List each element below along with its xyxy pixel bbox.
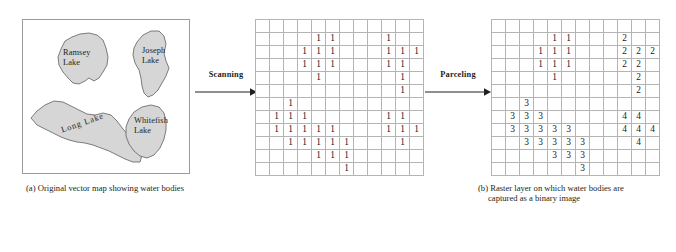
raster-binary-cell (354, 163, 368, 176)
raster-binary-cell: 1 (298, 111, 312, 124)
raster-parceled-cell: 2 (632, 59, 646, 72)
raster-parceled-cell (646, 33, 660, 46)
raster-binary-cell (340, 20, 354, 33)
raster-parceled-cell (576, 59, 590, 72)
raster-binary-cell: 1 (410, 46, 424, 59)
raster-binary-cell (368, 85, 382, 98)
long-lake-polygon (31, 101, 142, 162)
raster-binary-cell: 1 (312, 124, 326, 137)
raster-parceled-cell: 3 (562, 137, 576, 150)
raster-binary-cell (256, 20, 270, 33)
raster-binary-cell: 1 (298, 124, 312, 137)
raster-parceled-cell (618, 85, 632, 98)
panel-b-raster-binary: 1111111111111111111111111111111111111111… (222, 0, 447, 252)
raster-binary-cell (298, 163, 312, 176)
raster-binary-cell (284, 150, 298, 163)
raster-parceled-cell (548, 98, 562, 111)
raster-parceled-cell: 2 (632, 85, 646, 98)
raster-binary-cell: 1 (382, 111, 396, 124)
raster-binary-cell: 1 (326, 137, 340, 150)
raster-binary-cell (410, 150, 424, 163)
raster-parceled-cell (618, 163, 632, 176)
raster-binary-cell (298, 85, 312, 98)
raster-parceled-cell (506, 20, 520, 33)
raster-binary-cell (298, 33, 312, 46)
raster-binary-cell (256, 46, 270, 59)
raster-parceled-cell (492, 72, 506, 85)
raster-binary-cell (382, 163, 396, 176)
raster-parceled-cell (618, 98, 632, 111)
raster-parceled-cell (520, 163, 534, 176)
raster-binary-cell (382, 72, 396, 85)
raster-binary-cell (368, 124, 382, 137)
raster-parceled-cell (576, 85, 590, 98)
raster-binary-cell (256, 150, 270, 163)
raster-binary-cell (410, 20, 424, 33)
raster-binary-cell (410, 85, 424, 98)
raster-binary-cell: 1 (382, 33, 396, 46)
vector-map-frame: Ramsey Lake Joseph Lake Long Lake Whitef… (22, 19, 190, 174)
raster-binary-cell (410, 59, 424, 72)
raster-binary-cell: 1 (326, 59, 340, 72)
raster-binary-cell (354, 46, 368, 59)
raster-parceled-cell (562, 98, 576, 111)
raster-binary-cell (340, 33, 354, 46)
raster-binary-cell (368, 72, 382, 85)
raster-parceled-cell (548, 111, 562, 124)
raster-parceled-cell (506, 137, 520, 150)
raster-parceled-cell (590, 46, 604, 59)
raster-parceled-cell (520, 59, 534, 72)
raster-parceled-cell (562, 20, 576, 33)
raster-parceled-cell: 3 (506, 111, 520, 124)
raster-binary-cell (368, 59, 382, 72)
raster-parceled-cell: 3 (548, 137, 562, 150)
raster-binary-cell (368, 111, 382, 124)
raster-parceled-cell (520, 46, 534, 59)
raster-binary-cell (270, 85, 284, 98)
raster-binary-cell (410, 98, 424, 111)
raster-parceled-cell (492, 85, 506, 98)
raster-binary-cell (340, 72, 354, 85)
raster-parceled-cell (506, 98, 520, 111)
ramsey-lake-label: Ramsey Lake (63, 48, 91, 67)
raster-binary-cell: 1 (312, 72, 326, 85)
raster-parceled-cell (590, 163, 604, 176)
raster-parceled-cell (534, 150, 548, 163)
raster-binary-cell: 1 (340, 163, 354, 176)
raster-parceled-cell: 3 (506, 124, 520, 137)
raster-parceled-cell: 3 (548, 150, 562, 163)
raster-binary-cell (368, 33, 382, 46)
raster-parceled-cell (590, 124, 604, 137)
raster-parceled-cell (520, 85, 534, 98)
raster-parceled-cell (604, 20, 618, 33)
raster-parceled-cell (562, 85, 576, 98)
raster-binary-cell (340, 59, 354, 72)
raster-parceled-cell (562, 163, 576, 176)
raster-parceled-cell (590, 111, 604, 124)
raster-binary-cell (340, 124, 354, 137)
raster-parceled-cell: 1 (562, 33, 576, 46)
raster-parceled-cell: 4 (632, 124, 646, 137)
raster-binary-cell: 1 (396, 46, 410, 59)
raster-grid-binary: 1111111111111111111111111111111111111111… (255, 19, 424, 176)
figure-vector-to-raster: Ramsey Lake Joseph Lake Long Lake Whitef… (0, 0, 676, 252)
raster-parceled-cell (548, 163, 562, 176)
raster-binary-cell (382, 150, 396, 163)
raster-binary-cell: 1 (298, 46, 312, 59)
raster-parceled-cell: 4 (632, 111, 646, 124)
raster-binary-cell (284, 46, 298, 59)
raster-binary-cell (312, 111, 326, 124)
raster-binary-cell (354, 111, 368, 124)
raster-binary-cell (270, 59, 284, 72)
raster-binary-cell (382, 98, 396, 111)
raster-grid-parceled: 1121112221112212233334433333444333334333… (491, 19, 660, 176)
raster-binary-cell (326, 72, 340, 85)
raster-binary-cell: 1 (312, 33, 326, 46)
raster-binary-cell (354, 124, 368, 137)
raster-parceled-cell (506, 46, 520, 59)
raster-binary-cell (312, 98, 326, 111)
raster-parceled-cell (506, 85, 520, 98)
raster-parceled-cell: 3 (548, 124, 562, 137)
raster-binary-cell (312, 20, 326, 33)
raster-binary-cell (270, 33, 284, 46)
